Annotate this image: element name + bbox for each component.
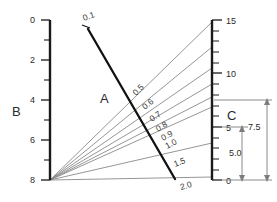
axis-b-label-2: 2 <box>30 55 35 65</box>
axis-b-label-4: 4 <box>30 95 35 105</box>
dimension-label-5-0: 5.0 <box>229 148 242 158</box>
axis-c-label-15: 15 <box>226 16 236 26</box>
label-a: A <box>100 91 109 106</box>
axis-b-label-8: 8 <box>30 175 35 185</box>
axis-b-label-0: 0 <box>30 15 35 25</box>
dimension-label-7-5: 7.5 <box>248 122 261 132</box>
chart-background <box>0 0 277 202</box>
axis-c-label-5: 5 <box>226 123 231 133</box>
nomogram-chart: 0 2 4 6 8 15 <box>0 0 277 202</box>
axis-c-label-10: 10 <box>226 69 236 79</box>
label-c: C <box>227 108 236 123</box>
axis-c-label-0: 0 <box>226 176 231 186</box>
axis-b-label-6: 6 <box>30 135 35 145</box>
nomogram-canvas: 0 2 4 6 8 15 <box>0 0 277 202</box>
label-b: B <box>12 104 21 119</box>
